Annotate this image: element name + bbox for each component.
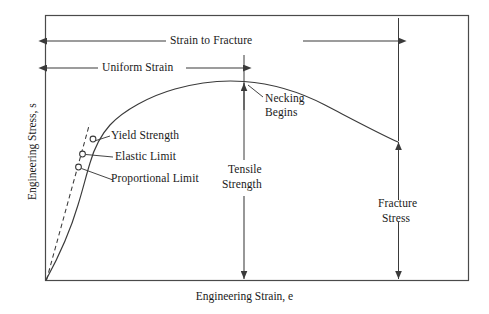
proportional-limit-label: Proportional Limit (111, 172, 199, 185)
stress-strain-figure: Engineering Stress, s Engineering Strain… (0, 0, 489, 314)
yield-strength-marker (90, 136, 110, 142)
stress-strain-diagram-canvas (0, 0, 489, 314)
strain-to-fracture-label: Strain to Fracture (170, 34, 252, 47)
y-axis-label: Engineering Stress, s (26, 103, 38, 200)
elastic-dashed-line (47, 124, 90, 280)
necking-begins-label-line2: Begins (265, 106, 298, 119)
plot-frame (46, 16, 469, 281)
yield-strength-label: Yield Strength (111, 129, 179, 142)
elastic-limit-label: Elastic Limit (115, 150, 176, 163)
elastic-limit-marker (80, 151, 113, 157)
fracture-stress-label-line1: Fracture (378, 197, 417, 210)
proportional-limit-marker (76, 164, 113, 180)
necking-begins-leader (248, 85, 263, 97)
fracture-stress-label-line2: Stress (382, 212, 410, 225)
x-axis-label: Engineering Strain, e (0, 290, 489, 302)
tensile-strength-label-line2: Strength (222, 178, 262, 191)
tensile-strength-label-line1: Tensile (228, 163, 262, 176)
uniform-strain-label: Uniform Strain (102, 61, 173, 74)
necking-begins-label-line1: Necking (265, 92, 305, 105)
